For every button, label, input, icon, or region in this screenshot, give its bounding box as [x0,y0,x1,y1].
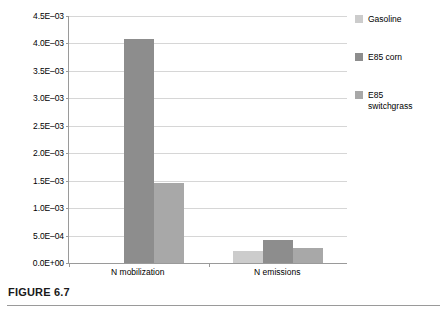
gridline [69,126,347,127]
y-axis-tick-label: 2.5E–03 [0,121,64,131]
y-axis-tick-label: 4.0E–03 [0,38,64,48]
bar [154,183,184,263]
y-axis-tick-mark [66,208,69,209]
bar-chart: 0.0E+005.0E–041.0E–031.5E–032.0E–032.5E–… [0,0,447,284]
plot-area [68,16,347,263]
gridline [69,43,347,44]
gridline [69,16,347,17]
y-axis-tick-mark [66,153,69,154]
y-axis-tick-mark [66,43,69,44]
gridline [69,181,347,182]
y-axis-tick-mark [66,126,69,127]
legend-entry: E85 corn [355,52,402,63]
legend-entry: E85 switchgrass [355,90,412,112]
y-axis-tick-label: 5.0E–04 [0,231,64,241]
bar [124,39,154,263]
legend-swatch-icon [355,53,363,61]
y-axis-tick-mark [66,236,69,237]
bar [263,240,293,263]
y-axis-tick-mark [66,98,69,99]
figure-root: 0.0E+005.0E–041.0E–031.5E–032.0E–032.5E–… [0,0,447,312]
y-axis-tick-mark [66,71,69,72]
y-axis-tick-label: 2.0E–03 [0,148,64,158]
y-axis-tick-mark [66,16,69,17]
x-axis-category-label: N mobilization [111,267,164,277]
bar [233,251,263,263]
y-axis-tick-label: 3.5E–03 [0,66,64,76]
y-axis-tick-label: 3.0E–03 [0,93,64,103]
x-axis-category-label: N emissions [254,267,300,277]
legend-label: Gasoline [368,14,402,25]
category-separator-tick [209,263,210,267]
gridline [69,208,347,209]
gridline [69,153,347,154]
y-axis-tick-label: 0.0E+00 [0,258,64,268]
gridline [69,71,347,72]
y-axis-tick-mark [66,181,69,182]
legend-entry: Gasoline [355,14,402,25]
legend-swatch-icon [355,15,363,23]
axis-origin-tick [69,263,70,267]
legend-label: E85 corn [368,52,402,63]
y-axis-tick-label: 1.5E–03 [0,176,64,186]
gridline [69,98,347,99]
legend-swatch-icon [355,91,363,99]
bar [293,248,323,263]
legend-label: E85 switchgrass [368,90,412,112]
gridline [69,236,347,237]
caption-divider [7,305,440,306]
y-axis-tick-label: 1.0E–03 [0,203,64,213]
figure-caption: FIGURE 6.7 [8,286,70,298]
y-axis-tick-label: 4.5E–03 [0,11,64,21]
